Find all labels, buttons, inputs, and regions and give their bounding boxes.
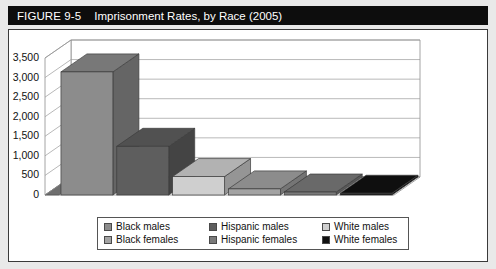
figure-panel: 05001,0001,5002,0002,5003,0003,500 Black…: [8, 29, 488, 262]
legend-item-white-males: White males: [322, 220, 408, 234]
legend-swatch-hispanic-males: [209, 223, 217, 231]
legend-swatch-black-females: [104, 236, 112, 244]
figure-number: FIGURE 9-5: [17, 10, 81, 22]
legend-label-white-males: White males: [334, 221, 389, 233]
y-tick-label: 3,500: [0, 52, 39, 63]
chart-legend: Black males Hispanic males White males B…: [97, 217, 409, 250]
figure-title-bar: FIGURE 9-5 Imprisonment Rates, by Race (…: [8, 6, 488, 25]
legend-swatch-hispanic-females: [209, 236, 217, 244]
legend-label-hispanic-males: Hispanic males: [221, 221, 289, 233]
legend-item-black-males: Black males: [104, 220, 209, 234]
legend-item-white-females: White females: [322, 234, 408, 248]
y-tick-label: 2,500: [0, 91, 39, 102]
y-tick-label: 500: [0, 169, 39, 180]
y-tick-label: 3,000: [0, 72, 39, 83]
legend-swatch-black-males: [104, 223, 112, 231]
y-tick-label: 1,000: [0, 150, 39, 161]
legend-item-hispanic-males: Hispanic males: [209, 220, 322, 234]
legend-label-black-females: Black females: [116, 234, 178, 246]
legend-label-white-females: White females: [334, 234, 397, 246]
figure-caption: Imprisonment Rates, by Race (2005): [94, 10, 282, 22]
legend-swatch-white-males: [322, 223, 330, 231]
legend-label-hispanic-females: Hispanic females: [221, 234, 297, 246]
figure-container: FIGURE 9-5 Imprisonment Rates, by Race (…: [0, 0, 496, 269]
y-tick-label: 1,500: [0, 130, 39, 141]
legend-item-hispanic-females: Hispanic females: [209, 234, 322, 248]
legend-swatch-white-females: [322, 236, 330, 244]
legend-item-black-females: Black females: [104, 234, 209, 248]
legend-label-black-males: Black males: [116, 221, 170, 233]
y-tick-label: 2,000: [0, 111, 39, 122]
y-tick-label: 0: [0, 189, 39, 200]
